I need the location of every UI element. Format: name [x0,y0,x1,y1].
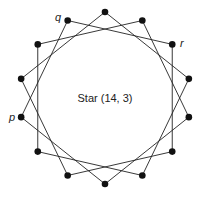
vertex-dot [34,148,41,155]
star-edge [142,21,189,118]
label-r: r [180,37,185,49]
vertex-dot [64,172,71,179]
vertex-dot [139,172,146,179]
star-edge [21,12,105,79]
vertex-dot [169,148,176,155]
vertex-dot [18,76,25,83]
star-edge [21,21,68,118]
vertex-dot [102,9,109,16]
label-p: p [8,111,15,123]
star-edge [21,79,68,176]
vertex-dot [18,114,25,121]
star-edge [105,117,189,184]
vertex-dot [186,76,193,83]
star-edge [105,12,189,79]
star-title: Star (14, 3) [77,92,132,104]
vertex-dot [139,17,146,24]
vertex-dot [102,181,109,188]
label-q: q [55,11,62,23]
star-diagram: Star (14, 3) q r p [0,0,205,197]
star-edge [21,117,105,184]
vertex-dot [186,114,193,121]
star-edge [142,79,189,176]
vertex-dot [64,17,71,24]
vertex-dot [34,41,41,48]
vertex-dot [169,41,176,48]
